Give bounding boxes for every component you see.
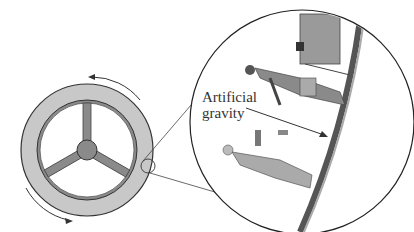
artificial-gravity-label: Artificial gravity [202, 89, 257, 121]
magnified-view [190, 10, 414, 232]
space-station-wheel [21, 84, 153, 216]
label-line-2: gravity [202, 105, 257, 121]
label-line-1: Artificial [202, 89, 257, 105]
